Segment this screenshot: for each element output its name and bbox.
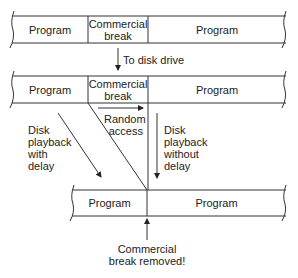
random-access-line1: Random — [104, 113, 143, 125]
without-delay-line3: without — [164, 148, 199, 160]
diagram-canvas: Program Commercial break Program To disk… — [0, 0, 298, 278]
to-disk-label: To disk drive — [123, 54, 184, 66]
middle-tape-program-1: Program — [12, 84, 88, 96]
removed-label-line2: break removed! — [97, 255, 197, 267]
top-tape-commercial-line2: break — [88, 30, 148, 42]
without-delay-line2: playback — [164, 136, 207, 148]
random-access-line2: access — [104, 125, 143, 137]
bottom-tape-program-1: Program — [72, 197, 147, 209]
middle-tape-program-2: Program — [148, 84, 286, 96]
top-tape-commercial-line1: Commercial — [88, 18, 148, 30]
top-tape-program-2: Program — [148, 24, 286, 36]
without-delay-line4: delay — [164, 160, 190, 172]
middle-tape-commercial-line1: Commercial — [88, 78, 148, 90]
without-delay-line1: Disk — [164, 124, 185, 136]
removed-label-line1: Commercial — [97, 243, 197, 255]
with-delay-line1: Disk — [28, 124, 49, 136]
top-tape-program-1: Program — [12, 24, 88, 36]
with-delay-line4: delay — [28, 160, 54, 172]
middle-tape-commercial-line2: break — [88, 90, 148, 102]
bottom-tape-program-2: Program — [147, 197, 286, 209]
with-delay-line2: playback — [28, 136, 71, 148]
with-delay-line3: with — [28, 148, 48, 160]
